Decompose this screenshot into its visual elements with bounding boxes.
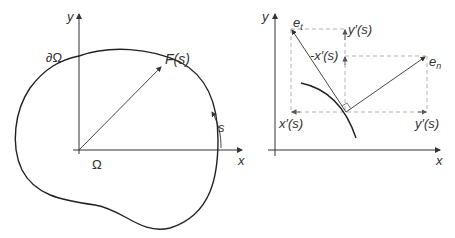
vector-label: F(s)	[165, 52, 190, 66]
left-x-axis-label: x	[238, 154, 245, 167]
figure: y x ∂Ω Ω F(s) s y x et en y′(s) -x′(s) x…	[0, 0, 455, 238]
yprime-bottom-label: y′(s)	[415, 117, 439, 130]
tangent-label: et	[293, 16, 303, 29]
right-x-axis-label: x	[436, 154, 443, 167]
tangent-vector	[292, 30, 346, 112]
right-y-axis-label: y	[262, 10, 269, 23]
yprime-top-label: y′(s)	[348, 23, 372, 36]
normal-label: en	[429, 55, 441, 68]
boundary-curve	[15, 49, 218, 229]
projection-lines	[291, 29, 427, 112]
normal-vector	[346, 57, 425, 112]
left-y-axis-label: y	[67, 10, 74, 23]
diagram-svg	[0, 0, 455, 238]
arc-length-label: s	[218, 121, 225, 134]
position-vector	[79, 67, 161, 150]
xprime-bottom-label: x′(s)	[279, 117, 303, 130]
boundary-label: ∂Ω	[46, 51, 62, 64]
domain-label: Ω	[92, 158, 102, 171]
neg-xprime-label: -x′(s)	[310, 49, 338, 62]
left-panel	[15, 14, 242, 229]
